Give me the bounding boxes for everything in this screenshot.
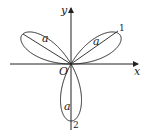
rose-curve-diagram: y x O a a a 1 2 (0, 0, 149, 136)
y-axis-label: y (60, 4, 68, 17)
leaf-2-tip-label: 2 (73, 120, 79, 130)
radius-label-leaf-bottom: a (64, 100, 71, 113)
radius-label-leaf-left: a (42, 32, 49, 45)
x-axis-label: x (134, 65, 141, 78)
leaf-1-tip-label: 1 (119, 23, 125, 33)
origin-label: O (59, 65, 68, 78)
radius-label-leaf-1: a (93, 35, 100, 48)
